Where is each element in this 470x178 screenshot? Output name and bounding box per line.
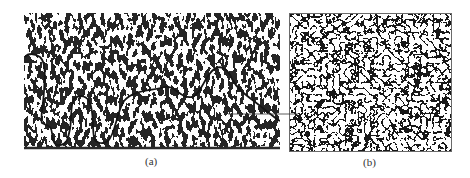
connector-overlay <box>0 0 470 178</box>
caption-b: (b) <box>363 156 376 168</box>
caption-a: (a) <box>145 155 157 167</box>
